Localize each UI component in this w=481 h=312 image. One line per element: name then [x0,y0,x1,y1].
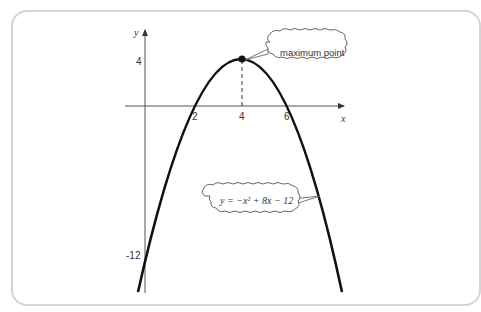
parabola-curve [138,59,342,292]
maximum-point-marker [238,55,245,62]
y-tick-4: 4 [136,56,142,67]
x-axis-label: x [340,113,346,124]
y-tick-neg12: -12 [126,250,141,261]
x-tick-4: 4 [239,111,245,122]
y-axis-label: y [133,27,139,38]
x-tick-2: 2 [192,111,198,122]
equation-callout: y = −x² + 8x − 12 [202,183,320,213]
equation-label: y = −x² + 8x − 12 [219,195,293,206]
maximum-point-label: maximum point [280,47,345,58]
maximum-point-callout: maximum point [245,29,347,61]
x-tick-6: 6 [284,111,290,122]
